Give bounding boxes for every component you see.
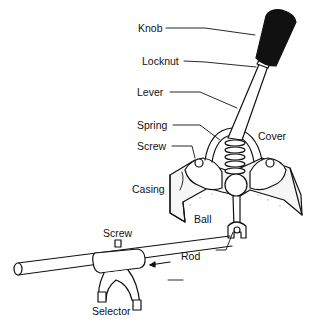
label-selector: Selector: [92, 305, 131, 317]
label-lever: Lever: [137, 86, 163, 98]
selector-shape: [93, 240, 145, 310]
label-screw-bottom: Screw: [103, 227, 132, 239]
label-casing: Casing: [132, 183, 165, 195]
label-locknut: Locknut: [142, 55, 179, 67]
spring-shape: [225, 140, 245, 174]
gear-lever-diagram: Knob Locknut Lever Spring Screw Cover Ca…: [0, 0, 309, 329]
label-ball: Ball: [194, 213, 212, 225]
knob-shape: [256, 10, 296, 66]
label-knob: Knob: [138, 22, 163, 34]
label-spring: Spring: [137, 119, 167, 131]
label-cover: Cover: [258, 130, 286, 142]
label-screw-top: Screw: [137, 140, 166, 152]
lever-shape: [228, 62, 268, 140]
diagram-drawing: [0, 0, 309, 329]
ball-shape: [225, 174, 247, 196]
label-rod: Rod: [181, 250, 200, 262]
